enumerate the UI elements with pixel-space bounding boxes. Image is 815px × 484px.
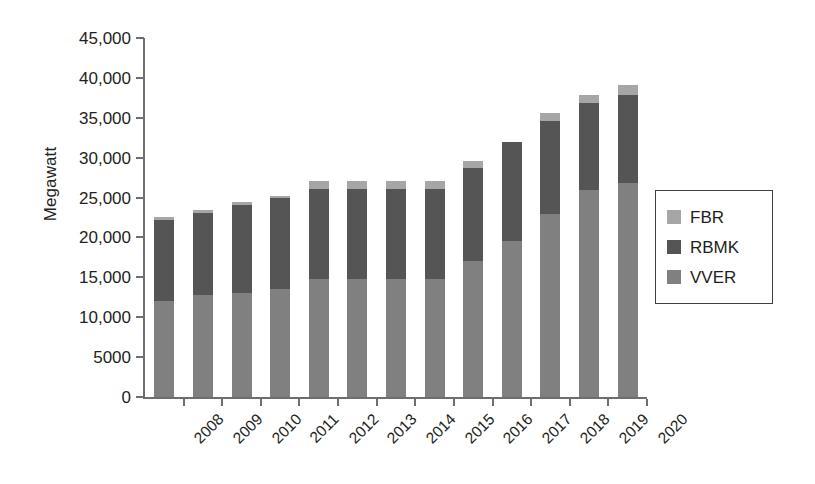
y-axis-tick-mark	[136, 316, 144, 318]
bar-group	[232, 38, 252, 397]
x-axis-tick-label: 2020	[655, 411, 690, 446]
bar-segment-fbr	[270, 196, 290, 198]
bar-segment-fbr	[425, 181, 445, 189]
x-axis-tick-mark	[376, 399, 378, 406]
x-axis-tick-mark	[569, 399, 571, 406]
legend-swatch-icon	[667, 240, 681, 254]
y-axis-tick-mark	[136, 77, 144, 79]
y-axis-tick-label: 25,000	[79, 189, 131, 206]
legend-label: RBMK	[690, 239, 739, 256]
x-axis-tick-label: 2016	[500, 411, 535, 446]
bar-segment-rbmk	[502, 142, 522, 241]
x-axis-tick-mark	[607, 399, 609, 406]
y-axis-tick-label: 40,000	[79, 69, 131, 86]
legend-label: FBR	[690, 209, 724, 226]
y-axis-tick-label: 5000	[93, 349, 131, 366]
x-axis-line	[143, 397, 647, 399]
stacked-bar-chart: Megawatt 45,00040,00035,00030,00025,0002…	[0, 0, 815, 484]
bar-segment-vver	[193, 295, 213, 397]
y-axis-tick-mark	[136, 276, 144, 278]
x-axis-tick-label: 2013	[384, 411, 419, 446]
y-axis-tick-mark	[136, 117, 144, 119]
y-axis-tick-label: 15,000	[79, 269, 131, 286]
bar-group	[309, 38, 329, 397]
x-axis-tick-label: 2018	[578, 411, 613, 446]
bar-segment-vver	[270, 289, 290, 397]
bar-group	[347, 38, 367, 397]
x-axis-tick-label: 2014	[423, 411, 458, 446]
bar-segment-rbmk	[618, 95, 638, 184]
y-axis-tick-label: 0	[122, 389, 131, 406]
bar-segment-vver	[232, 293, 252, 397]
bar-segment-rbmk	[309, 189, 329, 279]
bar-segment-rbmk	[193, 213, 213, 295]
y-axis-tick-mark	[136, 157, 144, 159]
bar-segment-fbr	[154, 217, 174, 220]
bar-segment-vver	[502, 241, 522, 397]
bar-segment-rbmk	[270, 198, 290, 289]
legend-label: VVER	[690, 269, 736, 286]
bar-segment-fbr	[463, 161, 483, 168]
x-axis-tick-label: 2017	[539, 411, 574, 446]
y-axis-tick-mark	[136, 37, 144, 39]
x-axis-tick-label: 2011	[307, 411, 342, 446]
bar-group	[193, 38, 213, 397]
bar-segment-fbr	[232, 202, 252, 204]
bar-segment-fbr	[540, 113, 560, 121]
bar-group	[540, 38, 560, 397]
x-axis-tick-mark	[298, 399, 300, 406]
y-axis-tick-label: 10,000	[79, 309, 131, 326]
y-axis-tick-label: 20,000	[79, 229, 131, 246]
bar-segment-vver	[386, 279, 406, 397]
legend-item-rbmk[interactable]: RBMK	[667, 232, 756, 262]
y-axis-tick-label: 30,000	[79, 149, 131, 166]
bar-segment-rbmk	[386, 189, 406, 279]
y-axis-tick-mark	[136, 356, 144, 358]
x-axis-tick-mark	[260, 399, 262, 406]
x-axis-tick-mark	[183, 399, 185, 406]
chart-legend: FBRRBMKVVER	[655, 190, 773, 304]
bar-segment-fbr	[193, 210, 213, 212]
legend-swatch-icon	[667, 210, 681, 224]
legend-item-fbr[interactable]: FBR	[667, 202, 756, 232]
bar-segment-rbmk	[540, 121, 560, 214]
x-axis-tick-mark	[530, 399, 532, 406]
bar-segment-vver	[463, 261, 483, 397]
x-axis-tick-label: 2008	[191, 411, 226, 446]
x-axis-tick-label: 2010	[269, 411, 304, 446]
y-axis-tick-label: 45,000	[79, 30, 131, 47]
x-axis-tick-label: 2015	[462, 411, 497, 446]
bar-segment-fbr	[579, 95, 599, 104]
y-axis-tick-label: 35,000	[79, 109, 131, 126]
bar-segment-rbmk	[154, 220, 174, 301]
bar-segment-vver	[309, 279, 329, 397]
legend-item-vver[interactable]: VVER	[667, 262, 756, 292]
bar-segment-rbmk	[425, 189, 445, 279]
x-axis-tick-mark	[337, 399, 339, 406]
bar-group	[270, 38, 290, 397]
bar-group	[463, 38, 483, 397]
bar-segment-fbr	[309, 181, 329, 189]
bar-group	[579, 38, 599, 397]
bar-group	[154, 38, 174, 397]
bar-segment-vver	[154, 301, 174, 397]
y-axis-tick-mark	[136, 396, 144, 398]
bar-group	[502, 38, 522, 397]
x-axis-tick-label: 2009	[230, 411, 265, 446]
bar-segment-rbmk	[232, 205, 252, 294]
bar-segment-fbr	[347, 181, 367, 189]
legend-swatch-icon	[667, 270, 681, 284]
bar-group	[386, 38, 406, 397]
y-axis-tick-labels: 45,00040,00035,00030,00025,00020,00015,0…	[55, 0, 137, 484]
bar-segment-rbmk	[579, 103, 599, 190]
x-axis-tick-label: 2012	[346, 411, 381, 446]
bar-segment-vver	[618, 183, 638, 397]
x-axis-tick-mark	[492, 399, 494, 406]
bar-segment-fbr	[618, 85, 638, 95]
bar-segment-vver	[540, 214, 560, 397]
bar-segment-rbmk	[463, 168, 483, 261]
bar-group	[425, 38, 445, 397]
bar-segment-fbr	[386, 181, 406, 189]
bar-segment-rbmk	[347, 189, 367, 279]
x-axis-tick-mark	[221, 399, 223, 406]
